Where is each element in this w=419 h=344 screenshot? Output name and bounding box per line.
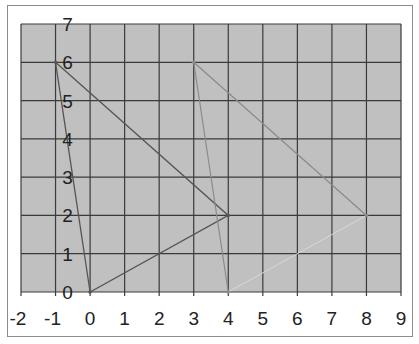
data-point — [226, 290, 230, 294]
y-tick-label: 0 — [62, 282, 73, 303]
x-tick-label: 5 — [258, 308, 269, 329]
x-tick-label: 8 — [361, 308, 372, 329]
x-tick-label: -1 — [44, 308, 61, 329]
y-tick-label: 6 — [62, 52, 73, 73]
data-point — [54, 60, 58, 64]
y-tick-label: 5 — [62, 91, 73, 112]
y-tick-label: 3 — [62, 167, 73, 188]
x-tick-label: 2 — [154, 308, 165, 329]
plot-area — [21, 24, 401, 292]
x-tick-label: 6 — [292, 308, 303, 329]
data-point — [192, 60, 196, 64]
x-tick-label: 4 — [223, 308, 234, 329]
data-point — [88, 290, 92, 294]
x-tick-label: 3 — [188, 308, 199, 329]
x-tick-label: 7 — [327, 308, 338, 329]
x-tick-label: 1 — [119, 308, 130, 329]
y-tick-label: 1 — [62, 244, 73, 265]
x-tick-label: 9 — [396, 308, 407, 329]
chart-plot: -2-1012345678901234567 — [0, 0, 419, 344]
y-tick-label: 4 — [62, 129, 73, 150]
y-tick-label: 7 — [62, 14, 73, 35]
data-point — [226, 214, 230, 218]
y-tick-label: 2 — [62, 205, 73, 226]
x-tick-label: 0 — [85, 308, 96, 329]
data-point — [365, 214, 369, 218]
x-tick-label: -2 — [10, 308, 27, 329]
